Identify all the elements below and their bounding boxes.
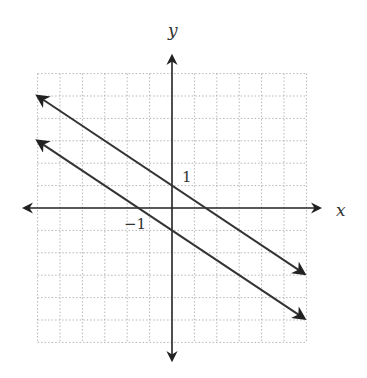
upper-line [38,96,305,274]
y-axis-label: y [167,20,178,40]
x-axis-label: x [336,200,346,220]
tick-label-x-neg1: −1 [124,215,146,233]
coordinate-plane: x y 1 −1 [0,0,367,378]
tick-label-y-1: 1 [182,168,192,186]
lower-line [38,141,305,319]
